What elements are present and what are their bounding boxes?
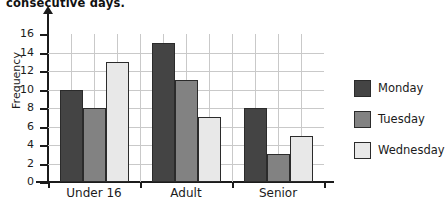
legend-swatch bbox=[354, 80, 371, 97]
plot-area bbox=[48, 34, 324, 182]
y-axis-tick bbox=[40, 108, 48, 110]
y-axis-tick bbox=[40, 90, 48, 92]
x-axis-category-label: Under 16 bbox=[48, 186, 140, 200]
y-axis-tick-label: 12 bbox=[0, 64, 34, 77]
gridline-vertical bbox=[140, 34, 141, 182]
legend-label: Tuesday bbox=[378, 112, 425, 126]
y-axis-tick-label: 8 bbox=[0, 101, 34, 114]
y-axis-tick bbox=[40, 145, 48, 147]
y-axis-tick bbox=[40, 164, 48, 166]
bar bbox=[152, 43, 175, 182]
x-axis-category-label: Senior bbox=[232, 186, 324, 200]
bar bbox=[83, 108, 106, 182]
legend-item: Wednesday bbox=[354, 142, 438, 173]
y-axis-tick-label: 2 bbox=[0, 157, 34, 170]
y-axis-tick bbox=[40, 71, 48, 73]
y-axis-tick bbox=[40, 53, 48, 55]
y-axis-tick bbox=[40, 182, 48, 184]
legend-item: Tuesday bbox=[354, 111, 438, 142]
x-axis-tick bbox=[324, 181, 326, 188]
bar bbox=[290, 136, 313, 182]
bar bbox=[267, 154, 290, 182]
chart-legend: MondayTuesdayWednesday bbox=[354, 80, 438, 173]
legend-label: Monday bbox=[378, 81, 423, 95]
bar bbox=[106, 62, 129, 182]
y-axis-tick-label: 14 bbox=[0, 46, 34, 59]
bar bbox=[244, 108, 267, 182]
y-axis-tick-label: 0 bbox=[0, 175, 34, 188]
cut-off-heading: consecutive days. bbox=[6, 0, 206, 10]
bar bbox=[198, 117, 221, 182]
y-axis-tick bbox=[40, 34, 48, 36]
y-axis-tick-label: 10 bbox=[0, 83, 34, 96]
legend-item: Monday bbox=[354, 80, 438, 111]
bar bbox=[60, 90, 83, 183]
y-axis-tick-label: 16 bbox=[0, 27, 34, 40]
gridline-vertical bbox=[232, 34, 233, 182]
x-axis-category-label: Adult bbox=[140, 186, 232, 200]
bar bbox=[175, 80, 198, 182]
legend-label: Wednesday bbox=[378, 143, 445, 157]
legend-swatch bbox=[354, 111, 371, 128]
legend-swatch bbox=[354, 142, 371, 159]
y-axis-tick-label: 6 bbox=[0, 120, 34, 133]
y-axis-tick bbox=[40, 127, 48, 129]
y-axis-tick-label: 4 bbox=[0, 138, 34, 151]
